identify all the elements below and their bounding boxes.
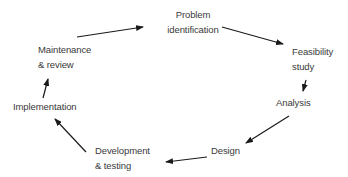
node-label-line: identification: [148, 22, 238, 37]
node-label-line: Design: [211, 143, 240, 158]
node-label-line: & review: [38, 57, 91, 72]
node-development-testing: Development & testing: [95, 143, 150, 173]
arrow-implementation-to-maintenance: [43, 79, 48, 98]
arrow-feasibility-to-analysis: [303, 80, 306, 91]
node-feasibility-study: Feasibility study: [292, 44, 333, 74]
node-problem-identification: Problem identification: [148, 7, 238, 37]
arrow-maintenance-to-problem: [77, 27, 143, 37]
node-analysis: Analysis: [276, 95, 311, 110]
node-maintenance-review: Maintenance & review: [38, 42, 91, 72]
node-label-line: Implementation: [13, 99, 77, 114]
node-design: Design: [211, 143, 240, 158]
node-label-line: Development: [95, 143, 150, 158]
node-label-line: Analysis: [276, 95, 311, 110]
arrow-analysis-to-design: [246, 116, 289, 143]
node-implementation: Implementation: [13, 99, 77, 114]
arrow-development-to-implementation: [55, 119, 86, 152]
node-label-line: Problem: [148, 7, 238, 22]
node-label-line: Feasibility: [292, 44, 333, 59]
node-label-line: study: [292, 59, 333, 74]
node-label-line: & testing: [95, 158, 150, 173]
node-label-line: Maintenance: [38, 42, 91, 57]
arrow-design-to-development: [166, 157, 207, 162]
lifecycle-diagram: Problem identification Feasibility study…: [0, 0, 348, 177]
